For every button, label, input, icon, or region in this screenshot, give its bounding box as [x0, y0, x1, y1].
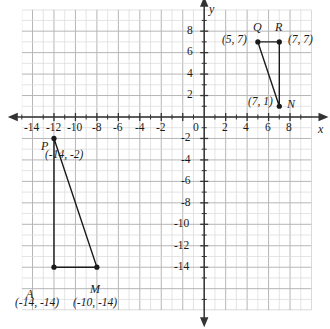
point-label-m: M: [90, 282, 100, 297]
y-tick-label--14: -14: [174, 260, 189, 272]
y-axis-label: y: [209, 2, 214, 17]
point-coords-m: (-10, -14): [73, 296, 117, 308]
x-tick-label-8: 8: [286, 121, 292, 133]
y-tick-label--12: -12: [174, 239, 189, 251]
vertex-dot-n: [277, 104, 282, 109]
point-label-q: Q: [253, 20, 262, 35]
y-axis-arrow-down: [200, 317, 208, 327]
origin-label: 0: [193, 121, 199, 133]
x-tick-label-6: 6: [265, 121, 271, 133]
x-tick-label-4: 4: [243, 121, 249, 133]
vertex-dot-a: [51, 265, 56, 270]
x-axis-arrow-right: [319, 113, 329, 121]
x-tick-label--6: -6: [113, 121, 123, 133]
x-tick-label--4: -4: [135, 121, 145, 133]
point-coords-p: (-14, -2): [45, 148, 83, 160]
vertex-dot-r: [277, 39, 282, 44]
point-coords-a: (-14, -14): [15, 296, 59, 308]
y-tick-label--4: -4: [181, 153, 191, 165]
x-axis-arrow-left: [8, 113, 18, 121]
point-coords-n: (7, 1): [248, 95, 273, 107]
coordinate-plane-figure: -14 -12 -10 -8 -6 -4 -2 2 4 6 8 8 6 4 2 …: [0, 0, 330, 329]
y-tick-label-8: 8: [187, 24, 193, 36]
y-tick-label-2: 2: [187, 88, 193, 100]
x-axis-label: x: [318, 122, 323, 137]
point-label-n: N: [287, 97, 295, 112]
y-tick-label--2: -2: [181, 131, 191, 143]
point-label-r: R: [275, 20, 282, 35]
vertex-dot-q: [255, 39, 260, 44]
y-tick-label--6: -6: [181, 174, 191, 186]
x-tick-label--12: -12: [46, 121, 61, 133]
x-tick-label--14: -14: [24, 121, 39, 133]
y-tick-label--8: -8: [181, 196, 191, 208]
point-coords-q: (5, 7): [222, 33, 247, 45]
y-tick-label-6: 6: [187, 45, 193, 57]
vertex-dot-m: [94, 265, 99, 270]
graph-canvas: [0, 0, 330, 329]
y-tick-label--10: -10: [174, 217, 189, 229]
y-axis-arrow-up: [200, 0, 208, 7]
x-tick-label-2: 2: [222, 121, 228, 133]
x-tick-label--2: -2: [156, 121, 166, 133]
x-tick-label--8: -8: [92, 121, 102, 133]
x-tick-label--10: -10: [67, 121, 82, 133]
y-tick-label-4: 4: [187, 67, 193, 79]
vertex-dot-p: [51, 136, 56, 141]
point-coords-r: (7, 7): [288, 33, 313, 45]
